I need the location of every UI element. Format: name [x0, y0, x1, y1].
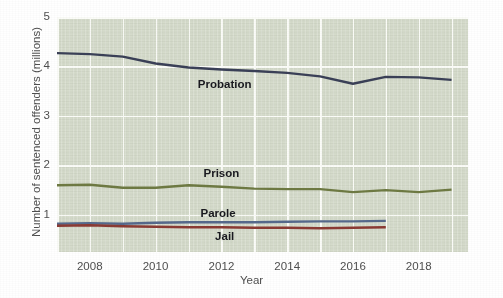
series-line-probation	[57, 53, 452, 84]
x-tick-label: 2016	[323, 260, 383, 272]
series-label-prison: Prison	[203, 167, 239, 179]
series-line-parole	[57, 221, 386, 224]
x-tick-label: 2012	[191, 260, 251, 272]
x-tick-label: 2008	[60, 260, 120, 272]
x-axis-title: Year	[0, 274, 503, 286]
series-line-prison	[57, 185, 452, 192]
y-tick-label: 1	[26, 208, 50, 220]
x-tick-label: 2014	[257, 260, 317, 272]
series-label-jail: Jail	[215, 230, 234, 242]
x-tick-label: 2010	[126, 260, 186, 272]
x-tick-label: 2018	[389, 260, 449, 272]
series-layer	[57, 17, 468, 252]
series-line-jail	[57, 225, 386, 228]
y-tick-label: 5	[26, 10, 50, 22]
series-label-probation: Probation	[198, 78, 252, 90]
series-label-parole: Parole	[201, 207, 236, 219]
chart-figure: Number of sentenced offenders (millions)…	[0, 0, 503, 298]
y-tick-label: 3	[26, 109, 50, 121]
y-tick-label: 2	[26, 158, 50, 170]
y-tick-label: 4	[26, 59, 50, 71]
